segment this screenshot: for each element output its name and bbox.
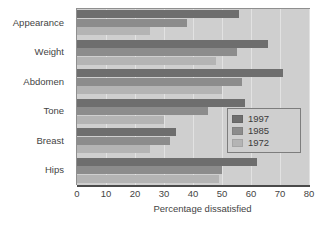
- x-tick-label: 30: [159, 188, 170, 199]
- category-label-weight: Weight: [35, 47, 64, 57]
- category-label-breast: Breast: [37, 136, 64, 146]
- bar-tone-1972: [77, 116, 164, 124]
- bar-weight-1985: [77, 48, 237, 56]
- category-label-tone: Tone: [43, 106, 64, 116]
- legend-swatch-icon-1972: [232, 139, 243, 147]
- legend-item-1985: 1985: [232, 125, 296, 136]
- bar-appearance-1985: [77, 19, 187, 27]
- bar-abdomen-1997: [77, 69, 283, 77]
- x-tick-label: 10: [101, 188, 112, 199]
- x-tick-label: 80: [304, 188, 315, 199]
- x-tick-label: 70: [275, 188, 286, 199]
- x-axis-title-text: Percentage dissatisfied: [83, 203, 251, 214]
- legend-label-1997: 1997: [248, 114, 269, 124]
- legend-label-1972: 1972: [248, 138, 269, 148]
- bar-abdomen-1985: [77, 78, 242, 86]
- category-label-hips: Hips: [45, 165, 64, 175]
- bar-tone-1985: [77, 107, 208, 115]
- x-tick-label: 20: [130, 188, 141, 199]
- category-label-appearance: Appearance: [13, 18, 64, 28]
- bar-weight-1997: [77, 40, 268, 48]
- legend: 1997 1985 1972: [227, 108, 301, 153]
- bar-appearance-1997: [77, 10, 239, 18]
- x-axis-title: Percentage dissatisfied: [0, 203, 335, 214]
- bar-hips-1972: [77, 175, 219, 183]
- bar-tone-1997: [77, 99, 245, 107]
- bar-abdomen-1972: [77, 86, 222, 94]
- x-tick-label: 50: [217, 188, 228, 199]
- category-label-abdomen: Abdomen: [23, 77, 64, 87]
- legend-label-1985: 1985: [248, 126, 269, 136]
- bar-appearance-1972: [77, 27, 150, 35]
- bar-hips-1985: [77, 166, 222, 174]
- legend-item-1997: 1997: [232, 113, 296, 124]
- x-tick-label: 40: [188, 188, 199, 199]
- bar-hips-1997: [77, 158, 257, 166]
- bar-chart: AppearanceWeightAbdomenToneBreastHips 01…: [0, 0, 335, 226]
- x-tick-label: 0: [74, 188, 79, 199]
- bar-breast-1997: [77, 128, 176, 136]
- bar-breast-1985: [77, 137, 170, 145]
- legend-swatch-icon-1985: [232, 127, 243, 135]
- x-tick-label: 60: [246, 188, 257, 199]
- legend-item-1972: 1972: [232, 137, 296, 148]
- legend-swatch-icon-1997: [232, 115, 243, 123]
- bar-weight-1972: [77, 57, 216, 65]
- bar-breast-1972: [77, 145, 150, 153]
